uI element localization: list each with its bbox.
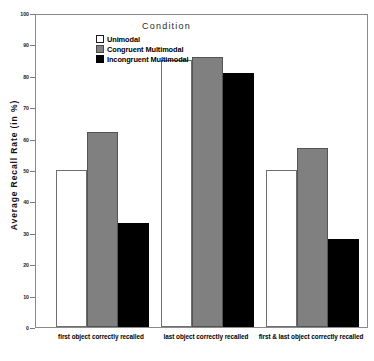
x-tick-label-first-object: first object correctly recalled: [58, 333, 144, 340]
bar-chart-figure: Average Recall Rate (in %) 0 10 20 30 40…: [0, 0, 374, 361]
bar-first-object-unimodal: [56, 170, 87, 327]
legend-item-unimodal: Unimodal: [96, 34, 231, 44]
bar-last-object-unimodal: [161, 60, 192, 327]
y-tick-label-70: 70: [1, 105, 29, 111]
bar-last-object-congruent: [192, 57, 223, 327]
bar-first-last-object-unimodal: [266, 170, 297, 327]
bar-first-object-congruent: [87, 132, 118, 327]
y-tick-label-40: 40: [1, 199, 29, 205]
plot-area: Condition Unimodal Congruent Multimodal …: [35, 14, 368, 328]
y-tick-label-30: 30: [1, 231, 29, 237]
bar-last-object-incongruent: [223, 73, 254, 327]
bar-group-first-and-last-object: [266, 15, 359, 327]
y-tick-label-50: 50: [1, 168, 29, 174]
x-axis-tick-labels: first object correctly recalled last obj…: [35, 333, 368, 349]
y-tick-label-90: 90: [1, 42, 29, 48]
bar-first-object-incongruent: [118, 223, 149, 327]
legend-item-incongruent-multimodal: Incongruent Multimodal: [96, 54, 231, 64]
legend-swatch-congruent-multimodal: [96, 45, 104, 53]
y-tick-label-80: 80: [1, 74, 29, 80]
legend: Condition Unimodal Congruent Multimodal …: [96, 21, 231, 64]
y-tick-label-60: 60: [1, 137, 29, 143]
x-tick-label-last-object: last object correctly recalled: [164, 333, 249, 340]
legend-title: Condition: [96, 21, 231, 31]
bar-first-last-object-congruent: [297, 148, 328, 327]
y-axis-tick-labels: 0 10 20 30 40 50 60 70 80 90 100: [0, 14, 31, 328]
x-tick-label-first-and-last-object: first & last object correctly recalled: [259, 333, 364, 340]
legend-swatch-incongruent-multimodal: [96, 55, 104, 63]
legend-item-congruent-multimodal: Congruent Multimodal: [96, 44, 231, 54]
legend-label-congruent-multimodal: Congruent Multimodal: [107, 45, 183, 54]
y-tick-label-0: 0: [1, 325, 29, 331]
y-tick-label-20: 20: [1, 262, 29, 268]
legend-label-incongruent-multimodal: Incongruent Multimodal: [107, 55, 189, 64]
legend-swatch-unimodal: [96, 35, 104, 43]
bar-first-last-object-incongruent: [328, 239, 359, 327]
y-tick-label-10: 10: [1, 294, 29, 300]
y-tick-label-100: 100: [1, 11, 29, 17]
legend-label-unimodal: Unimodal: [107, 35, 140, 44]
